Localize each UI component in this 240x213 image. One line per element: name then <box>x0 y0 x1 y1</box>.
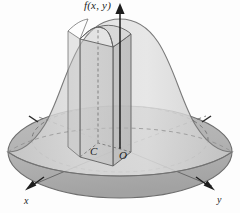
arrow-up-icon <box>115 3 124 14</box>
origin-label: O <box>119 150 127 161</box>
region-label-c: C <box>90 146 97 157</box>
y-axis-label: y <box>217 195 221 205</box>
figure-canvas <box>0 0 240 213</box>
vertical-axis-label: f(x, y) <box>84 0 111 11</box>
surface-plot-figure: f(x, y) x y C O <box>0 0 240 213</box>
x-axis-label: x <box>24 196 28 206</box>
vertical-column <box>80 25 131 166</box>
